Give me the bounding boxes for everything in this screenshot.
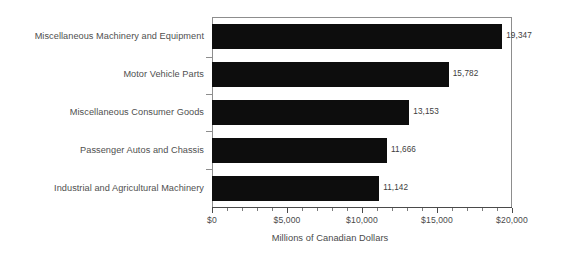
x-tick-minor (227, 208, 228, 211)
bar-3 (212, 138, 387, 163)
x-tick-minor (242, 208, 243, 211)
x-tick-minor (497, 208, 498, 211)
x-tick-minor (422, 208, 423, 211)
bars-layer (212, 17, 512, 207)
x-axis-title: Millions of Canadian Dollars (0, 233, 562, 244)
value-label-2: 13,153 (413, 107, 439, 116)
value-label-3: 11,666 (391, 145, 416, 154)
x-tick-label: $20,000 (496, 215, 528, 225)
x-tick-minor (452, 208, 453, 211)
bar-0 (212, 24, 502, 49)
x-tick-minor (347, 208, 348, 211)
x-tick-minor (392, 208, 393, 211)
category-label: Motor Vehicle Parts (0, 69, 204, 79)
x-tick-major (212, 208, 213, 213)
x-tick-major (512, 208, 513, 213)
category-label: Miscellaneous Machinery and Equipment (0, 31, 204, 41)
category-label: Passenger Autos and Chassis (0, 145, 204, 155)
x-tick-minor (377, 208, 378, 211)
value-label-4: 11,142 (383, 183, 408, 192)
category-axis-labels: Miscellaneous Machinery and Equipment Mo… (0, 17, 204, 207)
x-tick-minor (257, 208, 258, 211)
x-tick-minor (332, 208, 333, 211)
x-tick-label: $5,000 (274, 215, 301, 225)
x-tick-label: $0 (207, 215, 217, 225)
category-label: Miscellaneous Consumer Goods (0, 107, 204, 117)
x-tick-label: $10,000 (346, 215, 378, 225)
x-axis-title-text: Millions of Canadian Dollars (272, 233, 389, 244)
x-tick-label: $15,000 (421, 215, 453, 225)
x-tick-minor (407, 208, 408, 211)
x-tick-major (437, 208, 438, 213)
x-tick-minor (272, 208, 273, 211)
bar-4 (212, 176, 379, 201)
value-label-0: 19,347 (506, 31, 532, 40)
bar-chart: Miscellaneous Machinery and Equipment Mo… (0, 0, 562, 261)
bar-2 (212, 100, 409, 125)
x-tick-major (287, 208, 288, 213)
category-label: Industrial and Agricultural Machinery (0, 183, 204, 193)
x-tick-minor (317, 208, 318, 211)
x-tick-minor (302, 208, 303, 211)
bar-1 (212, 62, 449, 87)
value-label-1: 15,782 (453, 69, 479, 78)
x-tick-minor (467, 208, 468, 211)
x-tick-minor (482, 208, 483, 211)
x-tick-major (362, 208, 363, 213)
